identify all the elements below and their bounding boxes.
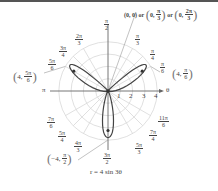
radial-tick-1: 1 xyxy=(117,92,121,100)
angle-label-pi-3: π3 xyxy=(135,33,140,46)
angle-label-3pi-4: 3π4 xyxy=(59,45,67,58)
angle-label-3pi-2: 3π2 xyxy=(103,152,111,165)
angle-label-11pi-6: 11π6 xyxy=(158,115,169,128)
angle-label-7pi-4: 7π4 xyxy=(149,129,157,142)
angle-label-pi: π xyxy=(42,86,46,94)
point-4-5pi6 xyxy=(72,70,75,73)
radial-tick-2: 2 xyxy=(129,92,133,100)
theta-axis-label: θ xyxy=(166,86,169,94)
angle-label-5pi-6: 5π6 xyxy=(48,58,56,71)
radial-tick-3: 3 xyxy=(142,92,146,100)
origin-leader xyxy=(108,12,136,91)
equation-label: r = 4 sin 3θ xyxy=(90,168,122,176)
axis-arrow-icon xyxy=(159,89,164,93)
angle-label-5pi-3: 5π3 xyxy=(135,142,143,155)
angle-label-5pi-4: 5π4 xyxy=(58,130,66,143)
angle-label-pi-6: π6 xyxy=(160,61,165,74)
annotation-4-5pi-6: (4, 5π6) xyxy=(13,70,37,83)
point-4-pi6 xyxy=(141,70,144,73)
angle-label-pi-2: π2 xyxy=(104,18,109,31)
annotation-origin: (0, 0) or (0, π3) or (0, 2π3) xyxy=(124,8,197,21)
annotation-neg4-pi-2: (−4, π2) xyxy=(47,152,72,165)
angle-label-2pi-3: 2π3 xyxy=(75,33,83,46)
angle-label-pi-4: π4 xyxy=(150,48,155,61)
angle-label-4pi-3: 4π3 xyxy=(74,140,82,153)
angle-label-7pi-6: 7π6 xyxy=(47,116,55,129)
radial-tick-4: 4 xyxy=(154,92,158,100)
annotation-4-pi-6: (4, π6) xyxy=(172,67,193,80)
point-origin xyxy=(106,89,110,93)
point-neg4-pi2 xyxy=(106,129,109,132)
